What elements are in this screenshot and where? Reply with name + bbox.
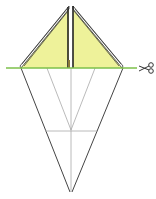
scissors-icon: [139, 63, 153, 74]
right-flap: [73, 6, 123, 68]
left-flap: [20, 6, 70, 68]
folding-diagram: [0, 0, 156, 199]
kite-diagram-svg: [0, 0, 156, 199]
kite-lower-outline: [21, 68, 123, 192]
